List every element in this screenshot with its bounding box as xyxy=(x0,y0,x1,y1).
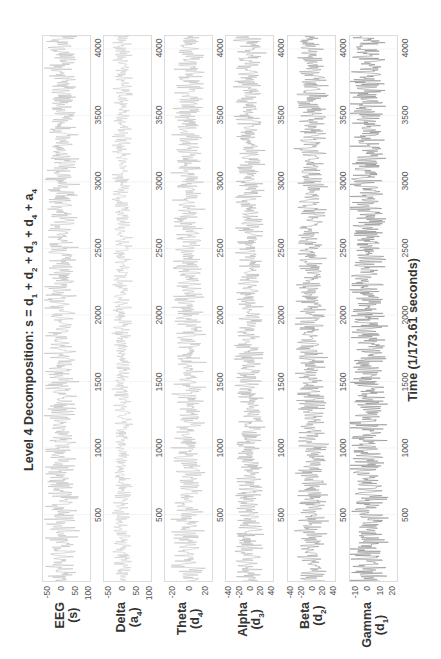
amplitude-tick-label: -40 xyxy=(223,586,233,598)
amplitude-tick-label: -10 xyxy=(350,586,360,598)
time-tick-label: 500 xyxy=(215,508,225,522)
amplitude-tick-label: 0 xyxy=(117,586,127,591)
time-tick-label: 2000 xyxy=(400,306,410,325)
time-tick-label: 1500 xyxy=(215,372,225,391)
amplitude-tick-label: 100 xyxy=(83,586,93,600)
amplitude-tick-label: 20 xyxy=(200,586,210,595)
time-tick-label: 1000 xyxy=(93,439,103,458)
amplitude-tick-label: 0 xyxy=(245,586,255,591)
amplitude-tick-label: 10 xyxy=(375,586,385,595)
amplitude-tick-label: 100 xyxy=(144,586,154,600)
time-tick-label: 1000 xyxy=(276,439,286,458)
time-tick-label: 3000 xyxy=(93,172,103,191)
time-tick-label: 3000 xyxy=(154,172,164,191)
time-tick-label: 2500 xyxy=(154,239,164,258)
time-tick-label: 3500 xyxy=(400,105,410,124)
time-tick-label: 1000 xyxy=(338,439,348,458)
amplitude-tick-label: 20 xyxy=(317,586,327,595)
time-tick-label: 2000 xyxy=(93,306,103,325)
time-tick-label: 4000 xyxy=(400,38,410,57)
amplitude-tick-label: -50 xyxy=(103,586,113,598)
time-tick-label: 500 xyxy=(338,508,348,522)
time-tick-label: 4000 xyxy=(276,38,286,57)
panel-gamma xyxy=(349,35,398,582)
time-tick-label: 4000 xyxy=(154,38,164,57)
amplitude-tick-label: 20 xyxy=(255,586,265,595)
amplitude-tick-label: -20 xyxy=(296,586,306,598)
time-tick-label: 1500 xyxy=(400,372,410,391)
time-tick-label: 500 xyxy=(276,508,286,522)
amplitude-tick-label: 0 xyxy=(307,586,317,591)
time-tick-label: 500 xyxy=(400,508,410,522)
time-tick-label: 1000 xyxy=(215,439,225,458)
signal-trace xyxy=(43,36,90,581)
time-tick-label: 2500 xyxy=(338,239,348,258)
amplitude-tick-label: -40 xyxy=(285,586,295,598)
time-tick-label: 1000 xyxy=(400,439,410,458)
panel-label-alpha: Alpha(d3) xyxy=(237,602,268,637)
amplitude-tick-label: 20 xyxy=(387,586,397,595)
time-tick-label: 3500 xyxy=(93,105,103,124)
signal-trace xyxy=(350,36,397,581)
time-tick-label: 3000 xyxy=(338,172,348,191)
panel-eeg xyxy=(42,35,91,582)
time-tick-label: 2000 xyxy=(338,306,348,325)
time-tick-label: 2000 xyxy=(154,306,164,325)
panel-label-theta: Theta(d4) xyxy=(176,602,207,635)
amplitude-tick-label: -50 xyxy=(42,586,52,598)
time-tick-label: 2000 xyxy=(276,306,286,325)
panel-label-delta: Delta(a4) xyxy=(115,602,146,633)
time-tick-label: 500 xyxy=(93,508,103,522)
time-tick-label: 1000 xyxy=(154,439,164,458)
time-tick-label: 2500 xyxy=(276,239,286,258)
amplitude-tick-label: -20 xyxy=(167,586,177,598)
panel-delta xyxy=(103,35,152,582)
amplitude-tick-label: 40 xyxy=(266,586,276,595)
amplitude-tick-label: 50 xyxy=(131,586,141,595)
panel-label-eeg: EEG(s) xyxy=(54,602,80,628)
signal-trace xyxy=(226,36,273,581)
time-tick-label: 3000 xyxy=(400,172,410,191)
panel-theta xyxy=(164,35,213,582)
time-tick-label: 2500 xyxy=(215,239,225,258)
time-tick-label: 4000 xyxy=(93,38,103,57)
signal-trace xyxy=(288,36,335,581)
time-tick-label: 3500 xyxy=(154,105,164,124)
time-tick-label: 3500 xyxy=(215,105,225,124)
time-tick-label: 1500 xyxy=(276,372,286,391)
amplitude-tick-label: 0 xyxy=(362,586,372,591)
time-tick-label: 2000 xyxy=(215,306,225,325)
time-tick-label: 500 xyxy=(154,508,164,522)
wavelet-decomposition-figure: Level 4 Decomposition: s = d1 + d2 + d3 … xyxy=(0,0,441,659)
amplitude-tick-label: 0 xyxy=(56,586,66,591)
panel-beta xyxy=(287,35,336,582)
time-tick-label: 2500 xyxy=(93,239,103,258)
time-tick-label: 4000 xyxy=(215,38,225,57)
time-tick-label: 1500 xyxy=(154,372,164,391)
panel-alpha xyxy=(225,35,274,582)
chart-title: Level 4 Decomposition: s = d1 + d2 + d3 … xyxy=(22,189,39,471)
panel-label-gamma: Gamma(d1) xyxy=(361,602,392,648)
amplitude-tick-label: -20 xyxy=(234,586,244,598)
signal-trace xyxy=(104,36,151,581)
time-tick-label: 3500 xyxy=(338,105,348,124)
time-tick-label: 1500 xyxy=(338,372,348,391)
amplitude-tick-label: 0 xyxy=(184,586,194,591)
time-tick-label: 3500 xyxy=(276,105,286,124)
time-tick-label: 3000 xyxy=(276,172,286,191)
signal-trace xyxy=(165,36,212,581)
time-tick-label: 1500 xyxy=(93,372,103,391)
time-tick-label: 4000 xyxy=(338,38,348,57)
time-tick-label: 3000 xyxy=(215,172,225,191)
panel-label-beta: Beta(d2) xyxy=(299,602,330,629)
amplitude-tick-label: 50 xyxy=(70,586,80,595)
amplitude-tick-label: 40 xyxy=(328,586,338,595)
time-tick-label: 2500 xyxy=(400,239,410,258)
